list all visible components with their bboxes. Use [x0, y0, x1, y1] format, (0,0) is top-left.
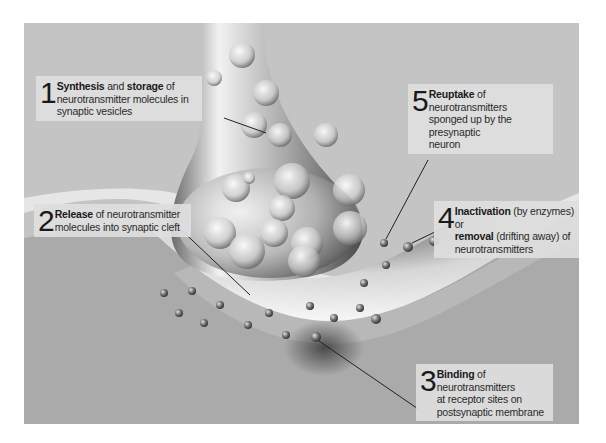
label-release: 2 Release of neurotransmitter molecules …	[34, 204, 191, 237]
step-number-2: 2	[38, 208, 54, 234]
step-number-1: 1	[40, 80, 56, 106]
label-reuptake: 5 Reuptake of neurotransmitters sponged …	[408, 84, 553, 154]
label-inactivation-removal: 4 Inactivation (by enzymes) or removal (…	[434, 201, 579, 258]
step-number-3: 3	[420, 368, 436, 394]
step-number-4: 4	[438, 205, 454, 231]
synapse-diagram: 1 Synthesis and storage of neurotransmit…	[24, 23, 579, 424]
label-synthesis-storage: 1 Synthesis and storage of neurotransmit…	[36, 76, 202, 121]
step-number-5: 5	[412, 88, 428, 114]
label-binding: 3 Binding of neurotransmitters at recept…	[416, 364, 553, 421]
